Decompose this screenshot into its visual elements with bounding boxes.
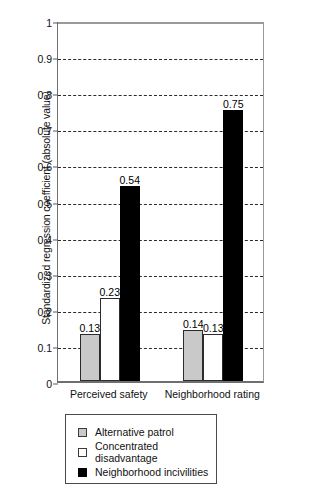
y-tick-mark xyxy=(53,311,58,312)
y-tick-label: 0.6 xyxy=(37,161,52,173)
y-tick-mark xyxy=(53,95,58,96)
legend-item-label: Neighborhood incivilities xyxy=(95,466,208,478)
y-tick-label: 0.1 xyxy=(37,342,52,354)
chart-legend: Alternative patrolConcentrated disadvant… xyxy=(65,414,217,484)
bar-value-label: 0.13 xyxy=(203,322,223,334)
y-tick-mark xyxy=(53,131,58,132)
y-tick-label: 0.8 xyxy=(37,89,52,101)
bar-value-label: 0.75 xyxy=(223,98,243,110)
y-tick-mark xyxy=(53,59,58,60)
bar-value-label: 0.14 xyxy=(183,318,203,330)
legend-swatch-icon xyxy=(78,468,87,477)
x-category-label: Neighborhood rating xyxy=(165,388,260,400)
bar xyxy=(223,110,243,381)
legend-item: Concentrated disadvantage xyxy=(78,442,216,462)
legend-swatch-icon xyxy=(78,448,87,457)
bar-value-label: 0.54 xyxy=(120,174,140,186)
legend-item: Neighborhood incivilities xyxy=(78,462,216,482)
y-tick-label: 0 xyxy=(46,378,52,390)
y-tick-mark xyxy=(53,23,58,24)
legend-item: Alternative patrol xyxy=(78,422,216,442)
y-tick-label: 0.2 xyxy=(37,306,52,318)
y-tick-label: 0.7 xyxy=(37,125,52,137)
plot-area: 0.130.230.540.140.130.75 00.10.20.30.40.… xyxy=(57,22,264,383)
y-tick-label: 0.5 xyxy=(37,198,52,210)
y-tick-label: 0.3 xyxy=(37,270,52,282)
bar-value-label: 0.13 xyxy=(80,322,100,334)
y-tick-label: 1 xyxy=(46,17,52,29)
bar xyxy=(80,334,100,381)
y-tick-label: 0.9 xyxy=(37,53,52,65)
bars-layer: 0.130.230.540.140.130.75 xyxy=(58,23,263,381)
bar xyxy=(203,334,223,381)
y-tick-mark xyxy=(53,167,58,168)
y-tick-mark xyxy=(53,203,58,204)
bar xyxy=(183,330,203,381)
y-tick-mark xyxy=(53,384,58,385)
bar xyxy=(120,186,140,381)
y-tick-mark xyxy=(53,347,58,348)
y-tick-mark xyxy=(53,275,58,276)
x-category-label: Perceived safety xyxy=(70,388,148,400)
bar-value-label: 0.23 xyxy=(100,286,120,298)
y-tick-label: 0.4 xyxy=(37,234,52,246)
legend-swatch-icon xyxy=(78,428,87,437)
legend-item-label: Concentrated disadvantage xyxy=(95,440,216,464)
legend-item-label: Alternative patrol xyxy=(95,426,174,438)
bar xyxy=(100,298,120,381)
y-tick-mark xyxy=(53,239,58,240)
